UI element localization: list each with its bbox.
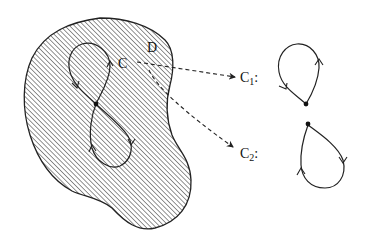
- region-d-shape: [24, 18, 191, 229]
- arrow-icon: [297, 168, 305, 175]
- c1-letter: C: [240, 70, 249, 85]
- curve-c-label: C: [118, 56, 127, 71]
- loop-c2: [301, 125, 344, 188]
- figure-svg: D C C1: C2:: [0, 0, 369, 246]
- crossing-point: [94, 102, 99, 107]
- c2-colon: :: [254, 146, 258, 161]
- c1-label: C1:: [240, 70, 258, 87]
- c2-label: C2:: [240, 146, 258, 163]
- diagram-canvas: D C C1: C2:: [0, 0, 369, 246]
- c1-base-point: [304, 102, 309, 107]
- c2-letter: C: [240, 146, 249, 161]
- c1-colon: :: [254, 70, 258, 85]
- c2-base-point: [306, 122, 311, 127]
- loop-c1: [278, 44, 319, 104]
- region-d-label: D: [147, 40, 157, 55]
